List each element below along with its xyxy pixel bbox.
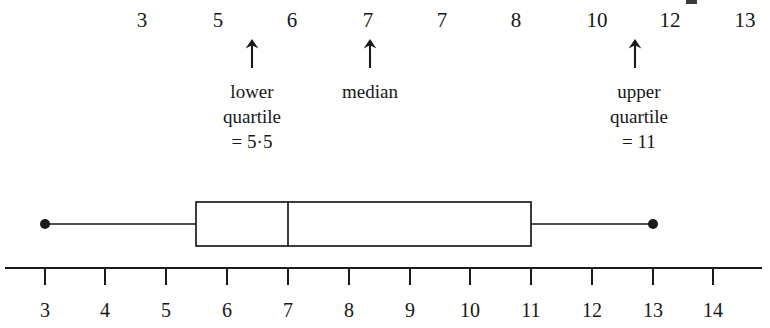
- axis-tick-label-7: 10: [448, 300, 492, 320]
- axis-tick-label-2: 5: [144, 300, 188, 320]
- axis-tick-label-9: 12: [570, 300, 614, 320]
- box-plot-figure: 3 5 6 7 7 8 10 12 13 lower quartile = 5·…: [0, 0, 770, 328]
- axis-tick-label-11: 14: [691, 300, 735, 320]
- box-plot-drawing: [0, 0, 770, 328]
- axis-tick-label-6: 9: [388, 300, 432, 320]
- axis-tick-label-3: 6: [205, 300, 249, 320]
- axis-tick-label-0: 3: [23, 300, 67, 320]
- axis-tick-label-10: 13: [631, 300, 675, 320]
- axis-tick-label-4: 7: [266, 300, 310, 320]
- axis-tick-label-8: 11: [509, 300, 553, 320]
- axis-tick-label-5: 8: [327, 300, 371, 320]
- axis-tick-label-1: 4: [83, 300, 127, 320]
